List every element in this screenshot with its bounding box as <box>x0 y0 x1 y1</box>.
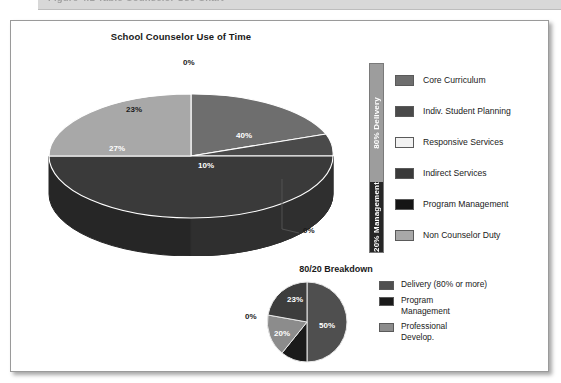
sub-pie-svg <box>247 277 367 367</box>
legend-label: Professional Develop. <box>401 321 447 342</box>
bar-segment-delivery-label: 80% Delivery <box>372 97 381 149</box>
main-pie-chart: 0% 40% 10% 27% 23% 0% <box>31 61 351 256</box>
sub-pie-chart: 50% 23% 20% 0% <box>247 277 367 367</box>
figure-caption-text: Figure 4.1 Table Counselor Use Chart <box>48 0 224 3</box>
legend-item-core-curriculum: Core Curriculum <box>395 65 545 96</box>
legend-swatch-icon <box>395 75 414 86</box>
legend-swatch-icon <box>395 106 414 117</box>
main-pie-svg <box>31 61 351 256</box>
bar-segment-management: 20% Management <box>370 182 383 252</box>
main-chart-legend: Core Curriculum Indiv. Student Planning … <box>395 65 545 251</box>
delivery-management-bar: 80% Delivery 20% Management <box>369 63 384 253</box>
legend-label: Delivery (80% or more) <box>401 279 487 290</box>
legend-swatch-icon <box>395 137 414 148</box>
legend-label: Indiv. Student Planning <box>423 107 511 117</box>
legend-swatch-icon <box>379 281 394 290</box>
legend-label: Program Management <box>423 200 509 210</box>
sub-legend-item-program-management: Program Management <box>379 295 544 316</box>
legend-label: Responsive Services <box>423 138 503 148</box>
legend-swatch-icon <box>379 297 394 306</box>
legend-swatch-icon <box>379 323 394 332</box>
legend-label: Program Management <box>401 295 450 316</box>
sub-chart-title: 80/20 Breakdown <box>256 264 416 274</box>
legend-item-responsive-services: Responsive Services <box>395 127 545 158</box>
legend-swatch-icon <box>395 168 414 179</box>
legend-item-program-management: Program Management <box>395 189 545 220</box>
legend-label: Core Curriculum <box>423 76 486 86</box>
legend-swatch-icon <box>395 199 414 210</box>
legend-item-indiv-student-planning: Indiv. Student Planning <box>395 96 545 127</box>
legend-swatch-icon <box>395 230 414 241</box>
main-chart-title: School Counselor Use of Time <box>11 31 351 42</box>
figure-panel: School Counselor Use of Time <box>10 20 549 372</box>
legend-label: Indirect Services <box>423 169 487 179</box>
legend-label: Non Counselor Duty <box>423 231 500 241</box>
pie-top-face <box>49 94 333 218</box>
bar-segment-management-label: 20% Management <box>372 182 381 252</box>
sub-chart-legend: Delivery (80% or more) Program Managemen… <box>379 279 544 347</box>
figure-caption-bar: Figure 4.1 Table Counselor Use Chart <box>38 0 561 10</box>
bar-segment-delivery: 80% Delivery <box>370 64 383 182</box>
sub-legend-item-professional-develop: Professional Develop. <box>379 321 544 342</box>
legend-item-indirect-services: Indirect Services <box>395 158 545 189</box>
sub-legend-item-delivery: Delivery (80% or more) <box>379 279 544 290</box>
legend-item-non-counselor-duty: Non Counselor Duty <box>395 220 545 251</box>
